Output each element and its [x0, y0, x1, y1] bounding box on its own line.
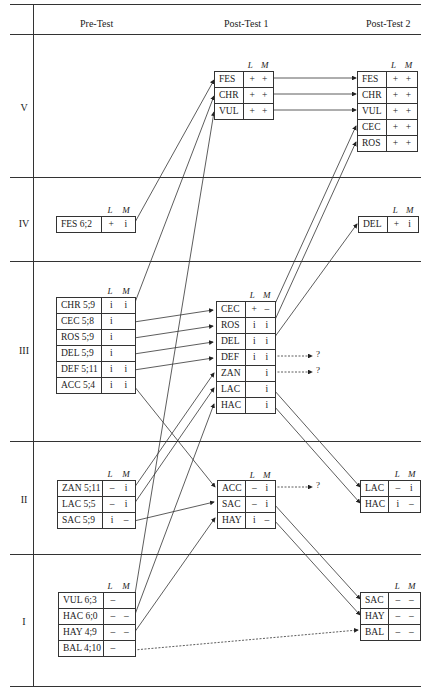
pretest-ii-table: ZAN 5;11–i LAC 5;5–i SAC 5;9i– [57, 480, 136, 529]
table-row: FES++ [358, 72, 417, 87]
table-row: DEFii [217, 349, 275, 365]
table-row: SAC–– [361, 593, 420, 608]
lm-header: LM [245, 470, 274, 480]
lm-header: LM [102, 581, 134, 591]
table-row: HAY 4;9–– [59, 624, 135, 640]
table-row: HAC 6;0–– [59, 608, 135, 624]
unknown-marker-def: ? [316, 349, 320, 359]
table-row: DEL 5;9i [57, 345, 135, 361]
lm-header: LM [390, 469, 419, 479]
table-row: VUL 6;3– [59, 593, 135, 608]
table-row: SAC 5;9i– [58, 512, 135, 528]
table-row: BAL 4;10– [59, 640, 135, 656]
posttest1-iii-table: CEC+– ROSii DELii DEFii ZANi LACi HACi [216, 301, 276, 414]
pretest-iii-table: CHR 5;9ii CEC 5;8i ROS 5;9i DEL 5;9i DEF… [56, 297, 136, 394]
table-row: ZAN 5;11–i [58, 481, 135, 496]
posttest2-iv-table: DEL+i [358, 216, 419, 233]
table-row: VUL++ [215, 103, 273, 119]
table-row: SAC–i [218, 496, 275, 512]
table-row: CEC++ [358, 119, 417, 135]
table-row: DEF 5;11ii [57, 361, 135, 377]
lm-header: LM [102, 205, 134, 215]
posttest2-ii-table: LAC–i HACi– [360, 480, 421, 513]
table-row: BAL–– [361, 624, 420, 640]
table-row: DELii [217, 333, 275, 349]
posttest2-i-table: SAC–– HAY–– BAL–– [360, 592, 421, 641]
table-row: CHR++ [215, 87, 273, 103]
lm-header: LM [390, 581, 419, 591]
lm-header: LM [388, 205, 417, 215]
table-row: HAY–– [361, 608, 420, 624]
table-row: HACi– [361, 496, 420, 512]
table-row: DEL+i [359, 217, 418, 232]
table-row: LAC–i [361, 481, 420, 496]
posttest2-v-table: FES++ CHR++ VUL++ CEC++ ROS++ [357, 71, 418, 152]
table-row: ROS 5;9i [57, 329, 135, 345]
table-row: ROSii [217, 317, 275, 333]
table-row: LACi [217, 381, 275, 397]
pretest-i-table: VUL 6;3– HAC 6;0–– HAY 4;9–– BAL 4;10– [58, 592, 136, 657]
unknown-marker-zan: ? [316, 365, 320, 375]
table-row: ACC 5;4ii [57, 377, 135, 393]
table-row: FES 6;2+i [57, 217, 135, 232]
table-row: VUL++ [358, 103, 417, 119]
table-row: FES++ [215, 72, 273, 87]
table-row: CEC 5;8i [57, 313, 135, 329]
table-row: ROS++ [358, 135, 417, 151]
table-row: CEC+– [217, 302, 275, 317]
table-row: HAYi– [218, 512, 275, 528]
pretest-iv-table: FES 6;2+i [56, 216, 136, 233]
lm-header: LM [102, 286, 134, 296]
table-row: ACC–i [218, 481, 275, 496]
lm-header: LM [243, 60, 272, 70]
lm-header: LM [102, 469, 134, 479]
posttest1-v-table: FES++ CHR++ VUL++ [214, 71, 274, 120]
table-row: HACi [217, 397, 275, 413]
table-row: ZANi [217, 365, 275, 381]
table-row: LAC 5;5–i [58, 496, 135, 512]
table-row: CHR++ [358, 87, 417, 103]
lm-header: LM [386, 60, 416, 70]
unknown-marker-acc: ? [316, 480, 320, 490]
posttest1-ii-table: ACC–i SAC–i HAYi– [217, 480, 276, 529]
lm-header: LM [245, 290, 274, 300]
table-row: CHR 5;9ii [57, 298, 135, 313]
